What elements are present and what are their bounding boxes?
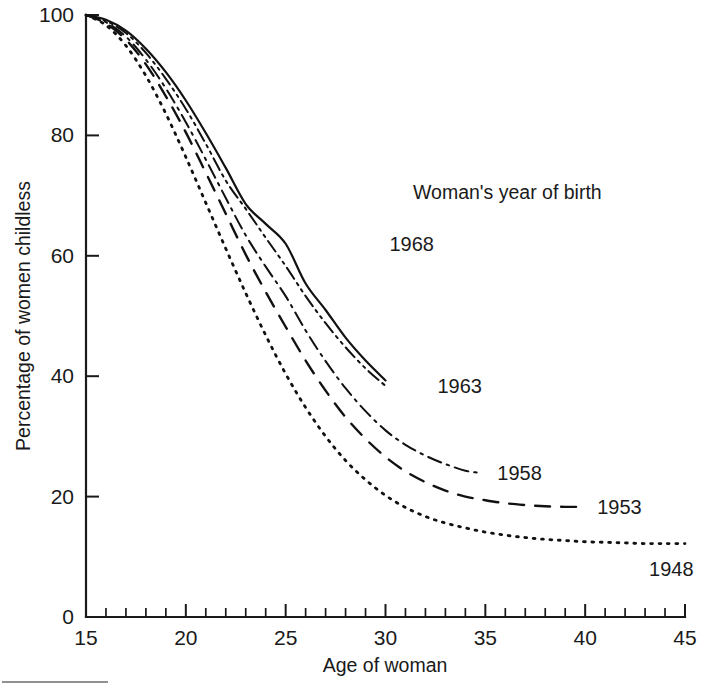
y-axis-tick-label: 0	[62, 605, 74, 628]
x-axis-tick-labels: 15202530354045	[74, 626, 696, 649]
series-curve-1953	[86, 15, 585, 507]
legend-title: Woman's year of birth	[413, 181, 602, 203]
chart-svg: 15202530354045 020406080100 196819631958…	[0, 0, 705, 697]
series-label-1953: 1953	[597, 496, 642, 518]
x-axis-tick-label: 25	[274, 626, 297, 649]
series-label-1958: 1958	[497, 462, 542, 484]
x-axis-ticks	[86, 604, 685, 617]
y-axis-title: Percentage of women childless	[12, 181, 34, 451]
series-curve-1968	[86, 15, 386, 380]
x-axis-tick-label: 15	[74, 626, 97, 649]
x-axis-tick-label: 30	[374, 626, 397, 649]
series-label-1968: 1968	[389, 233, 434, 255]
y-axis-tick-label: 60	[51, 244, 74, 267]
y-axis-tick-label: 20	[51, 485, 74, 508]
y-axis-tick-label: 40	[51, 364, 74, 387]
x-axis-tick-label: 45	[673, 626, 696, 649]
y-axis-tick-labels: 020406080100	[39, 3, 74, 628]
series-label-1948: 1948	[649, 558, 694, 580]
x-axis-tick-label: 35	[474, 626, 497, 649]
x-axis-tick-label: 40	[573, 626, 596, 649]
data-curves-group	[86, 15, 685, 544]
y-axis-tick-label: 80	[51, 123, 74, 146]
axes-group	[86, 15, 685, 617]
y-axis-ticks	[86, 15, 99, 617]
series-labels-group: 19681963195819531948	[389, 233, 693, 580]
series-curve-1948	[86, 15, 685, 544]
series-label-1963: 1963	[437, 375, 482, 397]
y-axis-tick-label: 100	[39, 3, 74, 26]
chart-figure: 15202530354045 020406080100 196819631958…	[0, 0, 705, 697]
x-axis-tick-label: 20	[174, 626, 197, 649]
x-axis-title: Age of woman	[323, 654, 448, 676]
